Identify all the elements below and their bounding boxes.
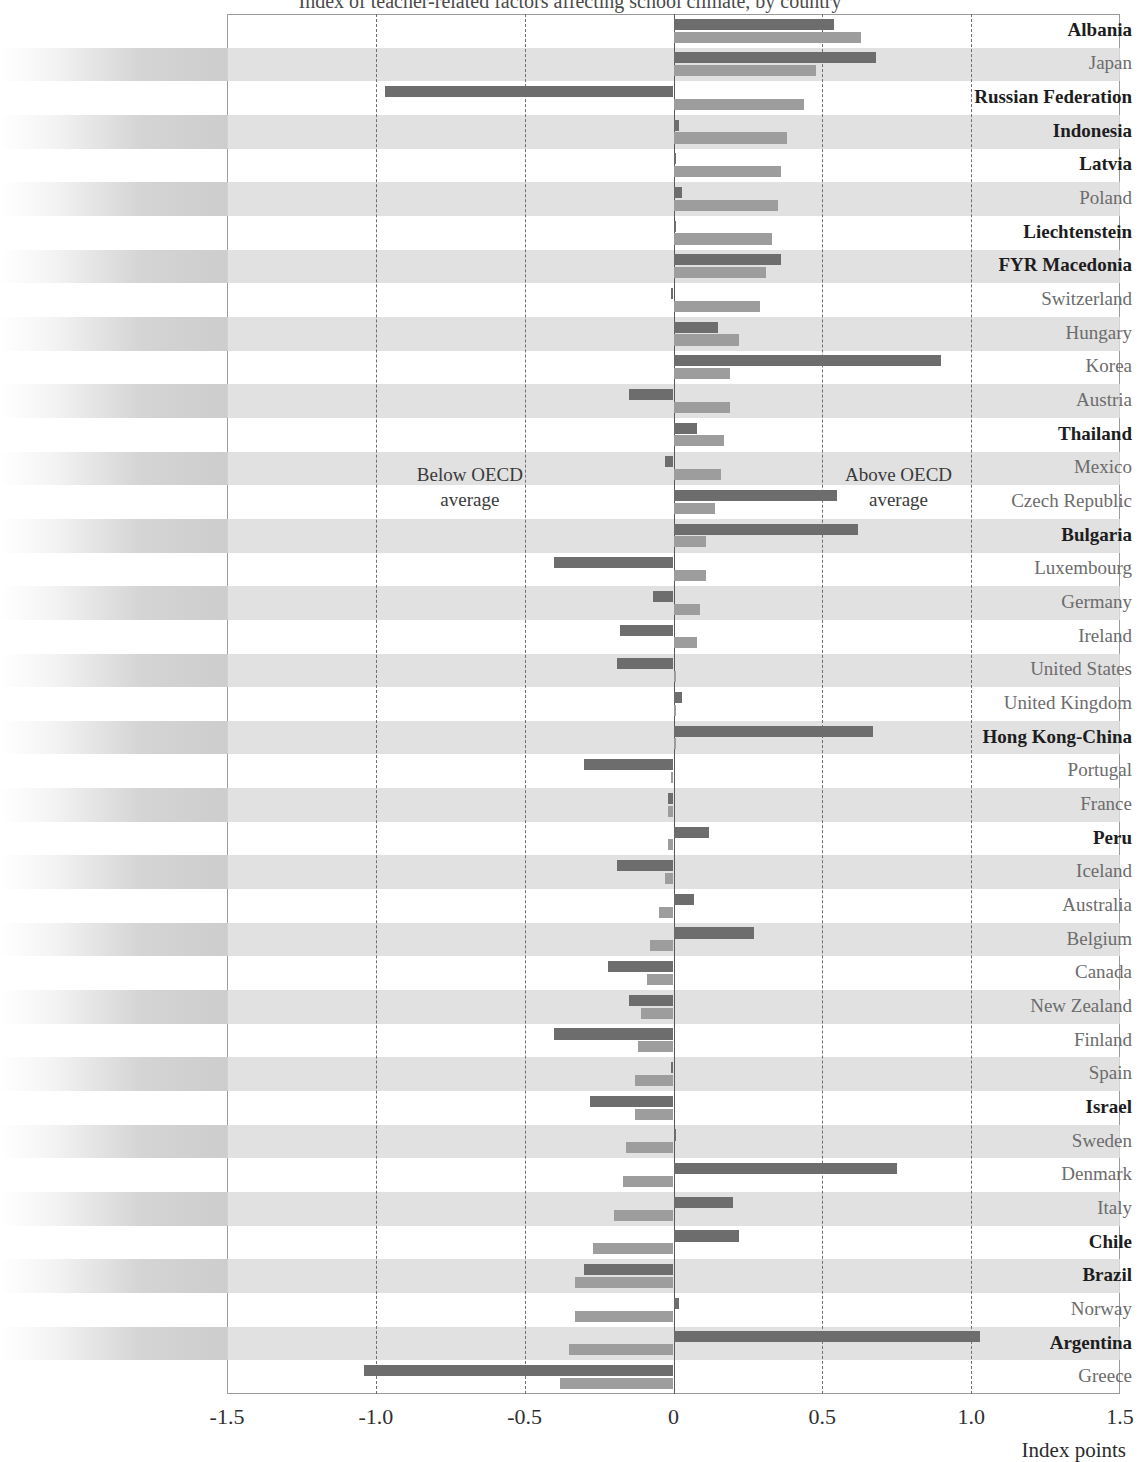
bar-israel-series1 xyxy=(590,1096,673,1107)
category-label-japan: Japan xyxy=(910,53,1132,72)
bar-poland-series1 xyxy=(674,187,683,198)
bar-indonesia-series2 xyxy=(674,132,787,143)
label-band xyxy=(0,990,227,1024)
category-label-russian-federation: Russian Federation xyxy=(910,87,1132,106)
bar-chile-series2 xyxy=(593,1243,673,1254)
bar-thailand-series2 xyxy=(674,435,725,446)
label-band xyxy=(0,250,227,284)
category-label-italy: Italy xyxy=(910,1198,1132,1217)
bar-chile-series1 xyxy=(674,1230,739,1241)
chart-title-strip: Index of teacher-related factors affecti… xyxy=(0,0,1140,14)
x-tick-10: 1.0 xyxy=(926,1404,1016,1430)
category-label-indonesia: Indonesia xyxy=(910,121,1132,140)
label-band xyxy=(0,317,227,351)
category-label-ireland: Ireland xyxy=(910,626,1132,645)
bar-united-states-series1 xyxy=(617,658,674,669)
bar-argentina-series2 xyxy=(569,1344,673,1355)
bar-liechtenstein-series2 xyxy=(674,233,772,244)
label-band xyxy=(0,1125,227,1159)
bar-denmark-series2 xyxy=(623,1176,674,1187)
bar-israel-series2 xyxy=(635,1109,674,1120)
bar-austria-series1 xyxy=(629,389,674,400)
x-tick-15: 1.5 xyxy=(1075,1404,1140,1430)
label-band xyxy=(0,923,227,957)
bar-ireland-series1 xyxy=(620,625,674,636)
x-axis-title: Index points xyxy=(1022,1438,1126,1462)
bar-italy-series1 xyxy=(674,1197,734,1208)
category-label-iceland: Iceland xyxy=(910,861,1132,880)
category-label-belgium: Belgium xyxy=(910,929,1132,948)
category-label-austria: Austria xyxy=(910,390,1132,409)
x-tick--05: -0.5 xyxy=(480,1404,570,1430)
category-label-denmark: Denmark xyxy=(910,1164,1132,1183)
category-label-bulgaria: Bulgaria xyxy=(910,525,1132,544)
label-band xyxy=(0,654,227,688)
bar-greece-series1 xyxy=(364,1365,674,1376)
bar-japan-series2 xyxy=(674,65,817,76)
bar-canada-series2 xyxy=(647,974,674,985)
x-axis: -1.5-1.0-0.500.51.01.5 Index points xyxy=(0,1394,1140,1462)
bar-hong-kong-china-series2 xyxy=(674,738,676,749)
bar-russian-federation-series1 xyxy=(385,86,674,97)
category-label-argentina: Argentina xyxy=(910,1333,1132,1352)
bar-bulgaria-series2 xyxy=(674,536,707,547)
bar-denmark-series1 xyxy=(674,1163,897,1174)
label-band xyxy=(0,586,227,620)
category-label-latvia: Latvia xyxy=(910,154,1132,173)
bar-thailand-series1 xyxy=(674,423,698,434)
category-label-australia: Australia xyxy=(910,895,1132,914)
bar-iceland-series1 xyxy=(617,860,674,871)
bar-russian-federation-series2 xyxy=(674,99,805,110)
bar-iceland-series2 xyxy=(665,873,674,884)
category-label-hong-kong-china: Hong Kong-China xyxy=(910,727,1132,746)
category-label-switzerland: Switzerland xyxy=(910,289,1132,308)
x-tick-0: 0 xyxy=(629,1404,719,1430)
bar-spain-series1 xyxy=(671,1062,674,1073)
category-label-portugal: Portugal xyxy=(910,760,1132,779)
bar-hong-kong-china-series1 xyxy=(674,726,873,737)
bar-spain-series2 xyxy=(635,1075,674,1086)
bar-new-zealand-series2 xyxy=(641,1008,674,1019)
category-label-mexico: Mexico xyxy=(910,457,1132,476)
bar-switzerland-series2 xyxy=(674,301,760,312)
label-band xyxy=(0,384,227,418)
bar-finland-series1 xyxy=(554,1028,673,1039)
bar-albania-series2 xyxy=(674,32,862,43)
category-label-united-kingdom: United Kingdom xyxy=(910,693,1132,712)
category-label-sweden: Sweden xyxy=(910,1131,1132,1150)
bar-indonesia-series1 xyxy=(674,120,680,131)
bar-korea-series2 xyxy=(674,368,731,379)
annotation-below-line1: Below OECD xyxy=(370,462,570,487)
bar-france-series2 xyxy=(668,806,674,817)
bar-finland-series2 xyxy=(638,1041,674,1052)
bar-ireland-series2 xyxy=(674,637,698,648)
category-label-brazil: Brazil xyxy=(910,1265,1132,1284)
bar-latvia-series1 xyxy=(674,153,676,164)
bar-australia-series1 xyxy=(674,894,695,905)
bar-albania-series1 xyxy=(674,19,835,30)
category-label-poland: Poland xyxy=(910,188,1132,207)
bar-peru-series2 xyxy=(668,839,674,850)
category-label-canada: Canada xyxy=(910,962,1132,981)
bar-united-kingdom-series2 xyxy=(674,705,676,716)
label-band xyxy=(0,1192,227,1226)
bar-brazil-series1 xyxy=(584,1264,673,1275)
x-tick-05: 0.5 xyxy=(777,1404,867,1430)
bar-switzerland-series1 xyxy=(671,288,674,299)
bar-united-kingdom-series1 xyxy=(674,692,683,703)
bar-new-zealand-series1 xyxy=(629,995,674,1006)
bar-canada-series1 xyxy=(608,961,673,972)
category-label-luxembourg: Luxembourg xyxy=(910,558,1132,577)
bar-italy-series2 xyxy=(614,1210,674,1221)
category-label-chile: Chile xyxy=(910,1232,1132,1251)
annotation-below-line2: average xyxy=(370,487,570,512)
bar-united-states-series2 xyxy=(674,671,676,682)
bar-france-series1 xyxy=(668,793,674,804)
bar-hungary-series1 xyxy=(674,322,719,333)
category-label-greece: Greece xyxy=(910,1366,1132,1385)
bar-japan-series1 xyxy=(674,52,876,63)
label-band xyxy=(0,1259,227,1293)
bar-belgium-series1 xyxy=(674,927,754,938)
gridline xyxy=(822,14,823,1394)
bar-czech-republic-series2 xyxy=(674,503,716,514)
